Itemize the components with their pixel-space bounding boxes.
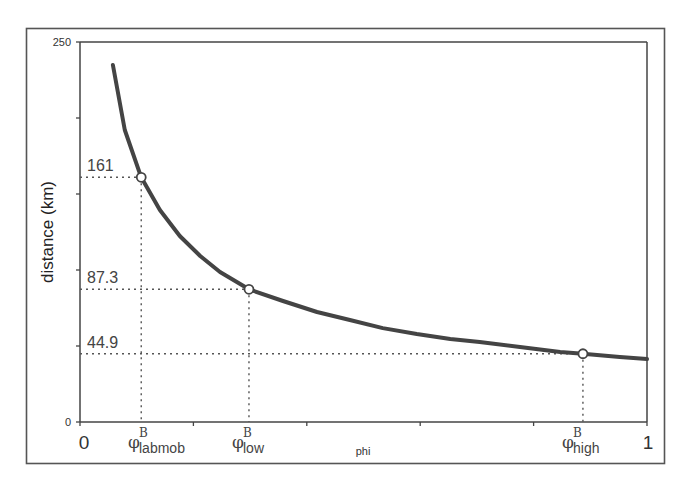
phi-label-low: φ B low	[232, 426, 265, 456]
phi-superscript: B	[573, 426, 582, 440]
distance-vs-phi-chart: 250 0 0 1 161 87.3 44.9 distance (km) ph…	[0, 0, 694, 486]
x-tick-label-1: 1	[643, 432, 654, 453]
phi-superscript: B	[243, 426, 252, 440]
outer-frame	[27, 29, 665, 464]
phi-label-high: φ B high	[562, 426, 599, 456]
distance-curve	[113, 65, 647, 359]
y-tick-label-250: 250	[53, 36, 71, 48]
phi-superscript: B	[139, 426, 148, 440]
marker-high	[578, 349, 587, 358]
marker-low	[244, 285, 253, 294]
value-label-labmob: 161	[87, 157, 114, 174]
phi-subscript-low: low	[243, 440, 265, 456]
y-tick-label-0: 0	[65, 416, 71, 428]
y-axis-title: distance (km)	[38, 181, 57, 283]
phi-label-labmob: φ B labmob	[128, 426, 185, 456]
phi-subscript-high: high	[573, 440, 599, 456]
phi-subscript-labmob: labmob	[139, 440, 185, 456]
guide-lines	[80, 177, 583, 422]
value-label-low: 87.3	[87, 269, 118, 286]
x-axis-title: phi	[356, 445, 371, 457]
marker-labmob	[137, 173, 146, 182]
value-label-high: 44.9	[87, 334, 118, 351]
x-tick-label-0: 0	[79, 432, 90, 453]
markers	[137, 173, 588, 358]
